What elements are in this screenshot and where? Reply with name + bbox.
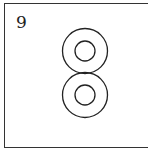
top-circle-pair	[63, 29, 108, 74]
concentric-circles-diagram	[0, 0, 148, 153]
top-inner-circle	[75, 41, 95, 61]
top-outer-circle	[63, 29, 108, 74]
bottom-outer-circle	[63, 73, 108, 118]
bottom-circle-pair	[63, 73, 108, 118]
bottom-inner-circle	[75, 85, 95, 105]
